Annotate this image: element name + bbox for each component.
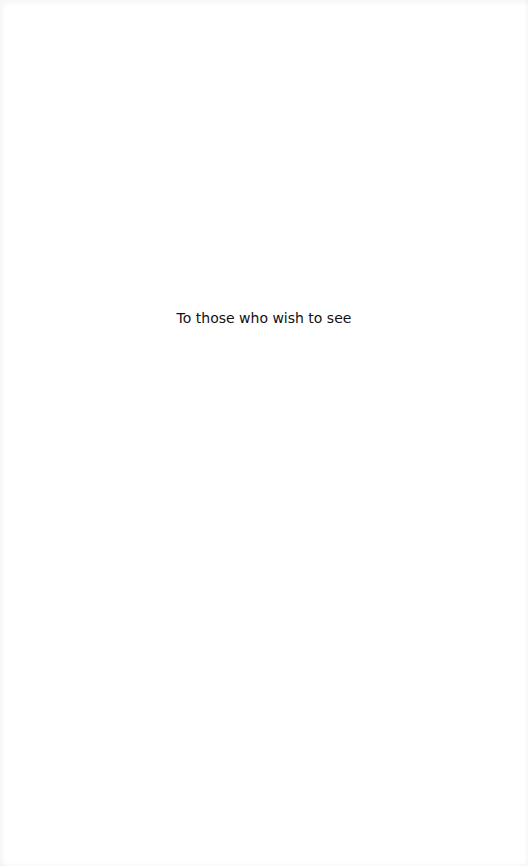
document-page: To those who wish to see — [0, 0, 528, 866]
dedication-text: To those who wish to see — [0, 310, 528, 326]
